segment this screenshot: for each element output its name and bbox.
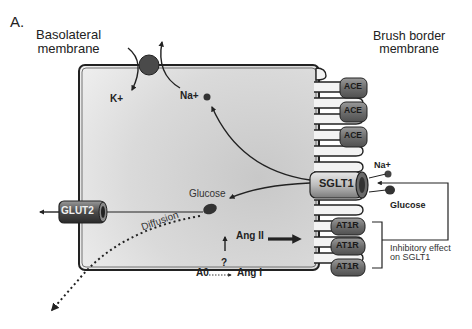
question-label: ? [221, 258, 227, 269]
glucose-inside-label: Glucose [189, 189, 226, 200]
at1r-label-1: AT1R [336, 221, 359, 230]
na-ion-label-inside: Na+ [180, 91, 199, 102]
na-ion-dot [204, 94, 211, 101]
ace-label-2: ACE [344, 106, 362, 115]
glucose-outside-label: Glucose [390, 201, 426, 210]
at1r-label-2: AT1R [336, 241, 359, 250]
ang-i-label: Ang I [237, 268, 262, 279]
ace-label-1: ACE [344, 82, 362, 91]
a0-label: A0 [196, 268, 209, 279]
basolateral-label: Basolateral membrane [36, 28, 101, 55]
inhibitory-label: Inhibitory effect on SGLT1 [390, 244, 451, 263]
brush-border-label: Brush border membrane [373, 30, 445, 56]
ang-ii-label: Ang II [236, 231, 264, 242]
k-ion-label: K+ [110, 94, 123, 105]
glut2-label: GLUT2 [61, 206, 94, 217]
glucose-outside [385, 186, 395, 195]
na-ion-label-outside: Na+ [374, 161, 391, 170]
sglt1-label: SGLT1 [319, 178, 354, 190]
ace-label-3: ACE [344, 131, 362, 140]
panel-label: A. [10, 14, 24, 30]
at1r-label-3: AT1R [336, 262, 359, 271]
